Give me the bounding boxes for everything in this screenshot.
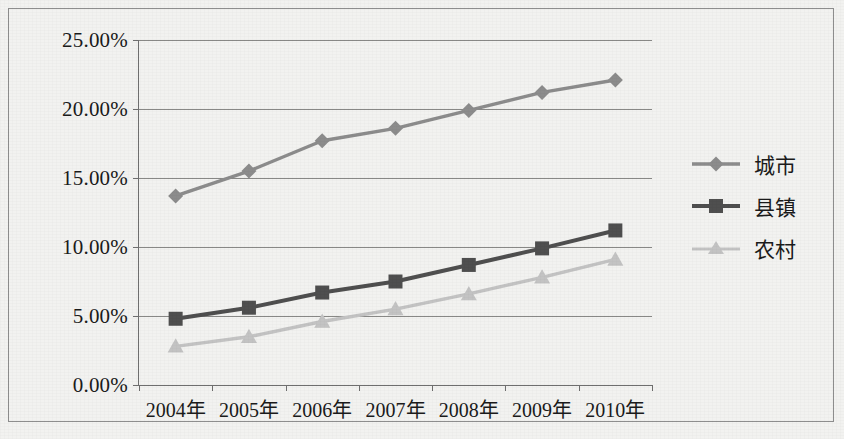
data-point-marker	[608, 73, 623, 88]
x-axis-tick-label: 2005年	[219, 394, 279, 423]
data-point-marker	[241, 164, 256, 179]
y-axis-tick-label: 5.00%	[73, 304, 128, 329]
x-axis-tick-label: 2010年	[585, 394, 645, 423]
series-city	[168, 73, 623, 204]
plot-area: 0.00%5.00%10.00%15.00%20.00%25.00% 2004年…	[139, 40, 652, 385]
series-rural	[168, 251, 624, 352]
legend-item-county: 县镇	[690, 185, 830, 227]
x-axis-tick	[212, 385, 213, 391]
legend-label-city: 城市	[754, 149, 796, 179]
data-point-marker	[535, 85, 550, 100]
legend-marker-diamond-icon	[690, 154, 742, 174]
data-point-marker	[169, 312, 183, 326]
y-axis-tick-label: 10.00%	[62, 235, 128, 260]
data-point-marker	[535, 241, 549, 255]
data-point-marker	[315, 286, 329, 300]
legend-label-county: 县镇	[754, 191, 796, 221]
legend-marker-square-icon	[690, 196, 742, 216]
x-axis-tick-label: 2006年	[292, 394, 352, 423]
x-axis-tick-label: 2009年	[512, 394, 572, 423]
x-axis-tick	[652, 385, 653, 391]
x-axis-tick	[579, 385, 580, 391]
data-point-marker	[388, 121, 403, 136]
chart-figure: 0.00%5.00%10.00%15.00%20.00%25.00% 2004年…	[0, 0, 844, 439]
y-axis-tick-label: 20.00%	[62, 97, 128, 122]
series-plot	[139, 40, 652, 385]
x-axis-tick-label: 2008年	[439, 394, 499, 423]
data-point-marker	[461, 103, 476, 118]
x-axis-line	[138, 385, 652, 386]
x-axis-tick	[139, 385, 140, 391]
data-point-marker	[607, 251, 623, 265]
x-axis-tick	[432, 385, 433, 391]
x-axis-tick	[359, 385, 360, 391]
y-axis-tick-label: 0.00%	[73, 373, 128, 398]
y-axis-tick-label: 25.00%	[62, 28, 128, 53]
y-axis-tick-label: 15.00%	[62, 166, 128, 191]
data-point-marker	[608, 223, 622, 237]
x-axis-tick-label: 2007年	[366, 394, 426, 423]
data-point-marker	[168, 188, 183, 203]
x-axis-tick	[286, 385, 287, 391]
x-axis-tick-label: 2004年	[146, 394, 206, 423]
data-point-marker	[315, 133, 330, 148]
x-axis-tick	[505, 385, 506, 391]
data-point-marker	[242, 301, 256, 315]
legend-label-rural: 农村	[754, 233, 796, 263]
data-point-marker	[389, 275, 403, 289]
legend-marker-triangle-icon	[690, 238, 742, 258]
chart-legend: 城市 县镇 农村	[690, 143, 830, 269]
legend-item-city: 城市	[690, 143, 830, 185]
series-line	[176, 80, 616, 196]
legend-item-rural: 农村	[690, 227, 830, 269]
data-point-marker	[462, 258, 476, 272]
